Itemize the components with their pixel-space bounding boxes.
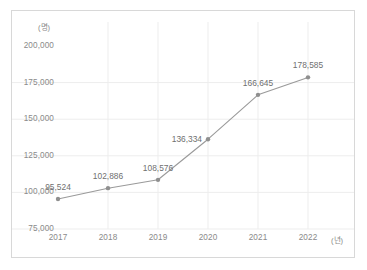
data-point-label: 166,645 (234, 78, 282, 88)
x-axis-tick-label: 2018 (86, 233, 130, 242)
line-chart: (명) 200,000175,000150,000125,000100,0007… (0, 0, 367, 270)
data-point-label: 178,585 (284, 60, 332, 70)
y-axis-tick-label: 75,000 (8, 224, 54, 233)
data-point-marker (56, 197, 60, 201)
data-point-marker (156, 178, 160, 182)
vertical-gridlines (108, 22, 308, 229)
x-axis-tick-label: 2017 (36, 233, 80, 242)
data-point-marker (256, 93, 260, 97)
x-axis-tick-label: 2019 (136, 233, 180, 242)
horizontal-gridlines (12, 83, 354, 229)
x-axis-unit-label: (년) (331, 234, 343, 245)
data-point-label: 102,886 (84, 171, 132, 181)
y-axis-tick-label: 150,000 (8, 114, 54, 123)
data-point-marker (306, 75, 310, 79)
y-axis-tick-label: 175,000 (8, 78, 54, 87)
y-axis-unit-label: (명) (38, 21, 50, 32)
data-point-label: 108,576 (134, 163, 182, 173)
y-axis-tick-label: 125,000 (8, 151, 54, 160)
y-axis-tick-label: 200,000 (8, 41, 54, 50)
x-axis-tick-label: 2021 (236, 233, 280, 242)
data-point-label: 95,524 (34, 182, 82, 192)
data-point-marker (106, 186, 110, 190)
data-point-marker (206, 137, 210, 141)
x-axis-tick-label: 2022 (286, 233, 330, 242)
x-axis-tick-label: 2020 (186, 233, 230, 242)
data-point-label: 136,334 (154, 134, 202, 144)
